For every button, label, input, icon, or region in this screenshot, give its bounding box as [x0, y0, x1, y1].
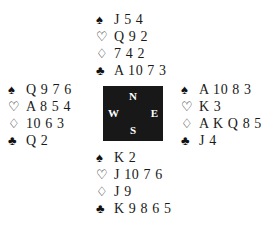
club-icon: ♣: [96, 63, 109, 79]
heart-icon: ♡: [96, 29, 109, 45]
spade-icon: ♠: [96, 150, 109, 166]
hand-south-hearts-cards: J 10 7 6: [109, 167, 163, 183]
hand-east-clubs-row: ♣ J 4: [181, 133, 262, 149]
hand-south-spades-cards: K 2: [109, 150, 136, 166]
diamond-icon: ♢: [96, 184, 109, 200]
hand-south-hearts-row: ♡ J 10 7 6: [96, 167, 172, 183]
compass-label-west: W: [108, 108, 119, 119]
compass-label-north: N: [103, 91, 163, 102]
spade-icon: ♠: [181, 82, 194, 98]
compass-label-south: S: [103, 125, 163, 136]
hand-east: ♠ A 10 8 3 ♡ K 3 ♢ A K Q 8 5 ♣ J 4: [181, 82, 262, 149]
hand-north-diamonds-row: ♢ 7 4 2: [96, 46, 167, 62]
hand-south-diamonds-row: ♢ J 9: [96, 184, 172, 200]
hand-east-hearts-cards: K 3: [194, 99, 221, 115]
diamond-icon: ♢: [8, 116, 21, 132]
hand-east-diamonds-cards: A K Q 8 5: [194, 116, 262, 132]
hand-east-spades-row: ♠ A 10 8 3: [181, 82, 262, 98]
hand-south: ♠ K 2 ♡ J 10 7 6 ♢ J 9 ♣ K 9 8 6 5: [96, 150, 172, 217]
hand-west-diamonds-row: ♢ 10 6 3: [8, 116, 72, 132]
hand-west-spades-cards: Q 9 7 6: [21, 82, 72, 98]
hand-north-clubs-cards: A 10 7 3: [109, 63, 167, 79]
hand-west: ♠ Q 9 7 6 ♡ A 8 5 4 ♢ 10 6 3 ♣ Q 2: [8, 82, 72, 149]
diamond-icon: ♢: [181, 116, 194, 132]
hand-south-clubs-row: ♣ K 9 8 6 5: [96, 201, 172, 217]
hand-east-diamonds-row: ♢ A K Q 8 5: [181, 116, 262, 132]
hand-north-hearts-row: ♡ Q 9 2: [96, 29, 167, 45]
hand-west-hearts-row: ♡ A 8 5 4: [8, 99, 72, 115]
heart-icon: ♡: [96, 167, 109, 183]
heart-icon: ♡: [181, 99, 194, 115]
spade-icon: ♠: [96, 12, 109, 28]
hand-west-spades-row: ♠ Q 9 7 6: [8, 82, 72, 98]
hand-south-clubs-cards: K 9 8 6 5: [109, 201, 172, 217]
hand-east-hearts-row: ♡ K 3: [181, 99, 262, 115]
hand-north-spades-row: ♠ J 5 4: [96, 12, 167, 28]
hand-north: ♠ J 5 4 ♡ Q 9 2 ♢ 7 4 2 ♣ A 10 7 3: [96, 12, 167, 79]
hand-north-diamonds-cards: 7 4 2: [109, 46, 145, 62]
hand-west-clubs-row: ♣ Q 2: [8, 133, 72, 149]
compass-label-east: E: [151, 108, 158, 119]
hand-north-spades-cards: J 5 4: [109, 12, 143, 28]
diamond-icon: ♢: [96, 46, 109, 62]
bridge-deal-diagram: ♠ J 5 4 ♡ Q 9 2 ♢ 7 4 2 ♣ A 10 7 3 ♠ Q 9…: [0, 0, 279, 225]
club-icon: ♣: [96, 201, 109, 217]
heart-icon: ♡: [8, 99, 21, 115]
hand-north-hearts-cards: Q 9 2: [109, 29, 148, 45]
hand-east-spades-cards: A 10 8 3: [194, 82, 252, 98]
hand-south-spades-row: ♠ K 2: [96, 150, 172, 166]
hand-south-diamonds-cards: J 9: [109, 184, 132, 200]
hand-west-hearts-cards: A 8 5 4: [21, 99, 71, 115]
hand-north-clubs-row: ♣ A 10 7 3: [96, 63, 167, 79]
club-icon: ♣: [181, 133, 194, 149]
club-icon: ♣: [8, 133, 21, 149]
hand-west-clubs-cards: Q 2: [21, 133, 48, 149]
hand-east-clubs-cards: J 4: [194, 133, 217, 149]
compass-box: N W E S: [103, 86, 163, 141]
hand-west-diamonds-cards: 10 6 3: [21, 116, 65, 132]
spade-icon: ♠: [8, 82, 21, 98]
